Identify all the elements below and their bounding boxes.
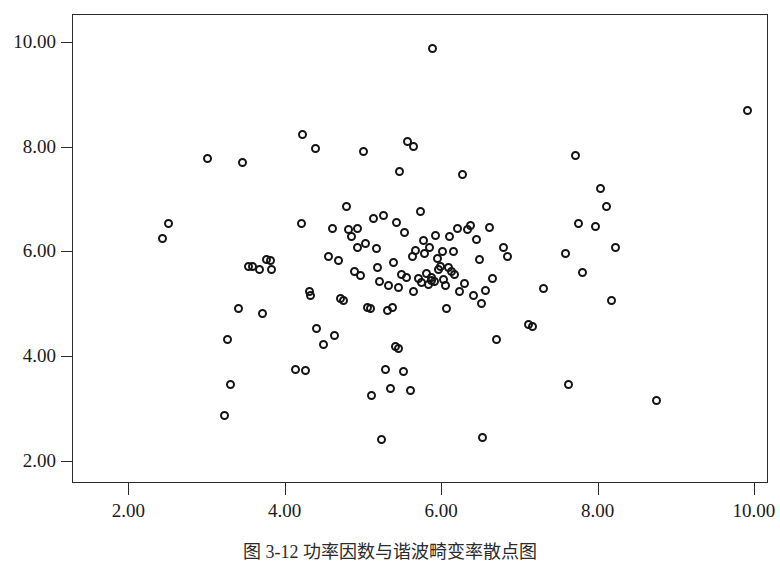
data-point bbox=[607, 296, 616, 305]
data-point bbox=[445, 232, 454, 241]
data-point bbox=[503, 252, 512, 261]
data-point bbox=[450, 270, 459, 279]
data-point bbox=[444, 263, 453, 272]
data-point bbox=[389, 258, 398, 267]
scatter-points-layer bbox=[73, 15, 767, 482]
data-point bbox=[652, 396, 661, 405]
data-point bbox=[574, 219, 583, 228]
x-axis-tick-label: 4.00 bbox=[225, 500, 345, 521]
data-point bbox=[399, 367, 408, 376]
data-point bbox=[475, 255, 484, 264]
data-point bbox=[472, 235, 481, 244]
data-point bbox=[466, 221, 475, 230]
x-axis-tick-label: 10.00 bbox=[694, 500, 780, 521]
y-axis-tick-label: 6.00 bbox=[0, 241, 56, 260]
data-point bbox=[492, 335, 501, 344]
data-point bbox=[460, 279, 469, 288]
data-point bbox=[369, 214, 378, 223]
data-point bbox=[234, 304, 243, 313]
data-point bbox=[394, 344, 403, 353]
data-point bbox=[402, 273, 411, 282]
data-point bbox=[223, 335, 232, 344]
data-point bbox=[395, 167, 404, 176]
data-point bbox=[481, 286, 490, 295]
data-point bbox=[319, 340, 328, 349]
data-point bbox=[409, 287, 418, 296]
data-point bbox=[238, 158, 247, 167]
data-point bbox=[291, 365, 300, 374]
figure-caption: 图 3-12 功率因数与谐波畸变率散点图 bbox=[0, 541, 780, 563]
data-point bbox=[488, 274, 497, 283]
data-point bbox=[458, 170, 467, 179]
data-point bbox=[372, 244, 381, 253]
data-point bbox=[591, 222, 600, 231]
x-axis-tick bbox=[128, 483, 129, 495]
data-point bbox=[571, 151, 580, 160]
data-point bbox=[158, 234, 167, 243]
data-point bbox=[379, 211, 388, 220]
data-point bbox=[220, 411, 229, 420]
data-point bbox=[564, 380, 573, 389]
data-point bbox=[442, 304, 451, 313]
x-axis-tick bbox=[754, 483, 755, 495]
data-point bbox=[427, 276, 436, 285]
data-point bbox=[485, 223, 494, 232]
data-point bbox=[330, 331, 339, 340]
data-point bbox=[449, 247, 458, 256]
data-point bbox=[416, 207, 425, 216]
data-point bbox=[324, 252, 333, 261]
data-point bbox=[438, 247, 447, 256]
data-point bbox=[455, 287, 464, 296]
data-point bbox=[353, 224, 362, 233]
data-point bbox=[596, 184, 605, 193]
data-point bbox=[255, 265, 264, 274]
data-point bbox=[561, 249, 570, 258]
data-point bbox=[431, 231, 440, 240]
data-point bbox=[453, 224, 462, 233]
data-point bbox=[392, 218, 401, 227]
x-axis-tick bbox=[598, 483, 599, 495]
plot-area bbox=[72, 14, 768, 483]
data-point bbox=[339, 296, 348, 305]
x-axis-tick-label: 8.00 bbox=[538, 500, 658, 521]
data-point bbox=[375, 277, 384, 286]
y-axis-tick-label: 8.00 bbox=[0, 137, 56, 156]
x-axis-tick bbox=[285, 483, 286, 495]
data-point bbox=[428, 44, 437, 53]
data-point bbox=[377, 435, 386, 444]
data-point bbox=[478, 433, 487, 442]
data-point bbox=[499, 243, 508, 252]
data-point bbox=[367, 391, 376, 400]
data-point bbox=[297, 219, 306, 228]
data-point bbox=[469, 291, 478, 300]
data-point bbox=[409, 142, 418, 151]
data-point bbox=[203, 154, 212, 163]
data-point bbox=[384, 281, 393, 290]
x-axis-tick-label: 2.00 bbox=[68, 500, 188, 521]
data-point bbox=[366, 304, 375, 313]
data-point bbox=[611, 243, 620, 252]
data-point bbox=[441, 281, 450, 290]
data-point bbox=[226, 380, 235, 389]
data-point bbox=[312, 324, 321, 333]
data-point bbox=[311, 144, 320, 153]
data-point bbox=[328, 224, 337, 233]
data-point bbox=[381, 365, 390, 374]
data-point bbox=[578, 268, 587, 277]
x-axis-tick-label: 6.00 bbox=[381, 500, 501, 521]
data-point bbox=[361, 239, 370, 248]
data-point bbox=[528, 322, 537, 331]
y-axis-tick-label: 4.00 bbox=[0, 346, 56, 365]
data-point bbox=[164, 219, 173, 228]
data-point bbox=[394, 283, 403, 292]
data-point bbox=[425, 243, 434, 252]
data-point bbox=[356, 271, 365, 280]
x-axis-tick bbox=[441, 483, 442, 495]
y-axis-tick-label: 2.00 bbox=[0, 451, 56, 470]
data-point bbox=[602, 202, 611, 211]
data-point bbox=[539, 284, 548, 293]
data-point bbox=[359, 147, 368, 156]
data-point bbox=[386, 384, 395, 393]
data-point bbox=[298, 130, 307, 139]
